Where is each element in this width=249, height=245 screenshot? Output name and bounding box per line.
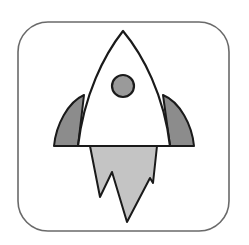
- rocket-window-icon: [112, 75, 134, 97]
- rocket-app-icon[interactable]: [0, 0, 249, 245]
